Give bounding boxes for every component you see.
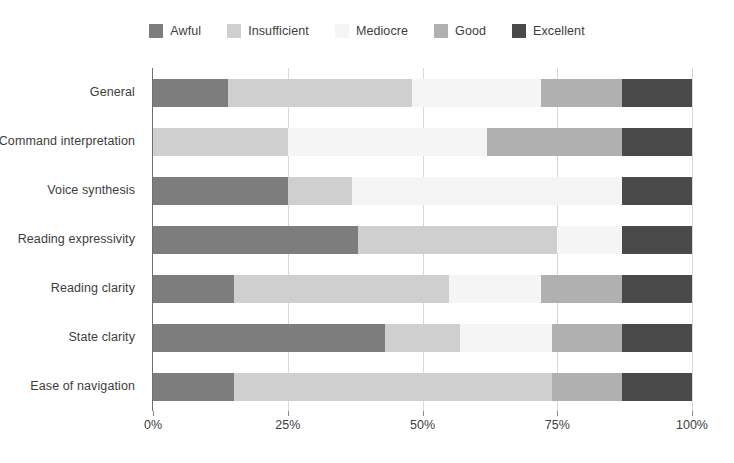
bar-segment-insufficient[interactable]	[153, 128, 288, 156]
bar-segment-awful[interactable]	[153, 79, 228, 107]
y-axis-label-state-clarity: State clarity	[0, 330, 145, 345]
bar-segment-awful[interactable]	[153, 324, 385, 352]
bar-row	[153, 128, 692, 156]
y-axis-label-general: General	[0, 85, 145, 100]
bar-segment-excellent[interactable]	[622, 177, 692, 205]
bar-segment-excellent[interactable]	[622, 128, 692, 156]
x-axis-tick-label: 100%	[676, 418, 708, 432]
bar-segment-mediocre[interactable]	[449, 275, 541, 303]
chart-legend: AwfulInsufficientMediocreGoodExcellent	[0, 24, 734, 38]
bar-segment-good[interactable]	[552, 373, 622, 401]
legend-item-label: Mediocre	[356, 24, 408, 38]
bar-segment-insufficient[interactable]	[234, 275, 450, 303]
bar-track	[153, 79, 692, 107]
bar-row	[153, 324, 692, 352]
y-axis-label-ease-of-navigation: Ease of navigation	[0, 379, 145, 394]
legend-item-label: Good	[455, 24, 486, 38]
bar-segment-mediocre[interactable]	[460, 324, 552, 352]
gridline	[692, 68, 693, 411]
bar-segment-excellent[interactable]	[622, 275, 692, 303]
y-axis-label-voice-synthesis: Voice synthesis	[0, 183, 145, 198]
bar-segment-excellent[interactable]	[622, 373, 692, 401]
bar-row	[153, 226, 692, 254]
legend-item-label: Insufficient	[248, 24, 309, 38]
bar-segment-insufficient[interactable]	[385, 324, 460, 352]
bar-track	[153, 177, 692, 205]
legend-swatch-icon	[335, 24, 349, 38]
bar-row	[153, 79, 692, 107]
bar-track	[153, 373, 692, 401]
legend-item-excellent[interactable]: Excellent	[512, 24, 585, 38]
bar-segment-awful[interactable]	[153, 275, 234, 303]
y-axis-label-reading-clarity: Reading clarity	[0, 281, 145, 296]
bar-segment-insufficient[interactable]	[228, 79, 411, 107]
plot-area	[153, 68, 692, 411]
bar-segment-excellent[interactable]	[622, 79, 692, 107]
x-axis-tickmark	[692, 411, 693, 416]
bar-segment-insufficient[interactable]	[358, 226, 557, 254]
legend-item-label: Excellent	[533, 24, 585, 38]
x-axis-tick-label: 0%	[144, 418, 162, 432]
x-axis-tickmark	[288, 411, 289, 416]
legend-item-insufficient[interactable]: Insufficient	[227, 24, 309, 38]
bar-segment-excellent[interactable]	[622, 324, 692, 352]
legend-item-label: Awful	[170, 24, 201, 38]
y-axis-label-command-interpretation: Command interpretation	[0, 134, 145, 149]
bar-segment-mediocre[interactable]	[352, 177, 622, 205]
bar-track	[153, 275, 692, 303]
bar-segment-excellent[interactable]	[622, 226, 692, 254]
bar-segment-good[interactable]	[487, 128, 622, 156]
bar-segment-awful[interactable]	[153, 177, 288, 205]
x-axis-tick-label: 25%	[275, 418, 300, 432]
bar-row	[153, 373, 692, 401]
legend-swatch-icon	[149, 24, 163, 38]
legend-swatch-icon	[512, 24, 526, 38]
bar-segment-good[interactable]	[552, 324, 622, 352]
bar-series-container	[153, 68, 692, 411]
bar-segment-mediocre[interactable]	[288, 128, 487, 156]
bar-segment-good[interactable]	[541, 275, 622, 303]
x-axis-tickmark	[153, 411, 154, 416]
x-axis-tickmark	[557, 411, 558, 416]
bar-segment-mediocre[interactable]	[412, 79, 541, 107]
legend-item-mediocre[interactable]: Mediocre	[335, 24, 408, 38]
bar-track	[153, 128, 692, 156]
y-axis-category-labels: GeneralCommand interpretationVoice synth…	[0, 68, 145, 411]
x-axis-tick-label: 50%	[410, 418, 435, 432]
bar-segment-good[interactable]	[541, 79, 622, 107]
x-axis-tickmark	[423, 411, 424, 416]
legend-item-good[interactable]: Good	[434, 24, 486, 38]
bar-track	[153, 226, 692, 254]
bar-row	[153, 177, 692, 205]
bar-segment-awful[interactable]	[153, 226, 358, 254]
x-axis-tick-labels: 0%25%50%75%100%	[153, 418, 692, 438]
bar-row	[153, 275, 692, 303]
bar-segment-insufficient[interactable]	[234, 373, 552, 401]
legend-swatch-icon	[434, 24, 448, 38]
legend-item-awful[interactable]: Awful	[149, 24, 201, 38]
bar-segment-mediocre[interactable]	[557, 226, 622, 254]
legend-swatch-icon	[227, 24, 241, 38]
y-axis-label-reading-expressivity: Reading expressivity	[0, 232, 145, 247]
bar-segment-insufficient[interactable]	[288, 177, 353, 205]
bar-track	[153, 324, 692, 352]
stacked-bar-chart: AwfulInsufficientMediocreGoodExcellent G…	[0, 0, 734, 463]
bar-segment-awful[interactable]	[153, 373, 234, 401]
x-axis-tick-label: 75%	[545, 418, 570, 432]
